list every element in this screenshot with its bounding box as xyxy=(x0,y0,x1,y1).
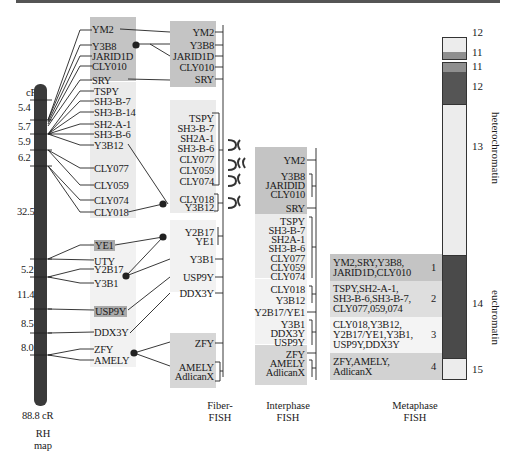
inversion-arrows xyxy=(228,140,245,208)
junction-dot xyxy=(132,41,139,48)
junction-dot xyxy=(122,272,129,279)
junction-dot xyxy=(159,233,166,240)
junction-dot xyxy=(159,200,166,207)
junction-dot xyxy=(130,349,137,356)
